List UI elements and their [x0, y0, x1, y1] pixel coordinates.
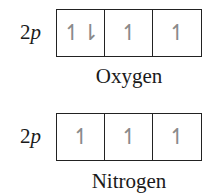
electron-up-arrow-icon: ↿: [72, 126, 90, 148]
electron-up-arrow-icon: ↿: [120, 22, 138, 44]
subshell-letter: p: [31, 20, 42, 44]
subshell-number: 2: [20, 124, 31, 148]
orbital-box: ↿: [153, 10, 201, 56]
nitrogen-orbital-boxes: ↿ ↿ ↿: [56, 113, 202, 161]
oxygen-orbital-boxes: ↿⇂ ↿ ↿: [56, 9, 202, 57]
orbital-box: ↿: [105, 114, 153, 160]
orbital-box: ↿: [153, 114, 201, 160]
nitrogen-subshell-label: 2p: [20, 126, 41, 147]
electron-up-arrow-icon: ↿: [168, 22, 186, 44]
subshell-letter: p: [31, 124, 42, 148]
electron-up-arrow-icon: ↿: [120, 126, 138, 148]
orbital-box: ↿: [105, 10, 153, 56]
electron-up-arrow-icon: ↿: [168, 126, 186, 148]
oxygen-label: Oxygen: [56, 64, 202, 89]
subshell-number: 2: [20, 20, 31, 44]
oxygen-subshell-label: 2p: [20, 22, 41, 43]
orbital-box: ↿: [57, 114, 105, 160]
electron-pair-arrows-icon: ↿⇂: [63, 22, 99, 44]
nitrogen-label: Nitrogen: [56, 169, 202, 194]
orbital-box: ↿⇂: [57, 10, 105, 56]
